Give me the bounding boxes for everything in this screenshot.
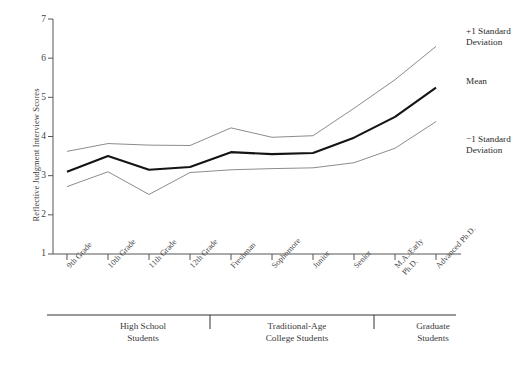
series-lines (67, 46, 436, 194)
group-label-high-school: High School Students (88, 321, 198, 344)
series-line-1 (67, 88, 436, 172)
group-label-college: Traditional-Age College Students (232, 321, 362, 344)
legend-upper-sd: +1 Standard Deviation (466, 26, 511, 48)
reflective-judgment-line-chart: Reflective Judgment Interview Scores 7 6… (0, 0, 527, 365)
legend-lower-sd: −1 Standard Deviation (466, 134, 511, 156)
legend-mean: Mean (466, 76, 487, 87)
y-tick-3: 3 (24, 170, 46, 180)
y-axis-title: Reflective Judgment Interview Scores (31, 55, 41, 255)
y-tick-1: 1 (24, 248, 46, 258)
group-label-graduate: Graduate Students (383, 321, 483, 344)
y-axis-ticks (48, 19, 53, 254)
y-tick-4: 4 (24, 131, 46, 141)
y-tick-2: 2 (24, 209, 46, 219)
y-tick-5: 5 (24, 92, 46, 102)
y-tick-7: 7 (24, 14, 46, 24)
plot-area (0, 0, 527, 365)
series-line-0 (67, 46, 436, 151)
y-tick-6: 6 (24, 53, 46, 63)
